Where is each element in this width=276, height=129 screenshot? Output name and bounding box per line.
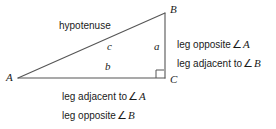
bottom-annotation-line-1-variable: A — [139, 90, 146, 102]
vertex-label-a: A — [6, 72, 13, 83]
bottom-annotation-block: leg adjacent to∠A leg opposite∠B — [62, 90, 146, 122]
hypotenuse-label: hypotenuse — [59, 21, 111, 31]
bottom-annotation-line-2-prefix: leg opposite — [62, 110, 116, 121]
right-annotation-line-2: leg adjacent to∠B — [177, 57, 261, 70]
vertex-label-c: C — [170, 74, 177, 85]
angle-symbol-icon: ∠ — [127, 90, 139, 102]
bottom-annotation-line-2: leg opposite∠B — [62, 109, 146, 122]
bottom-annotation-line-1: leg adjacent to∠A — [62, 90, 146, 103]
bottom-annotation-line-2-variable: B — [128, 109, 135, 121]
right-annotation-line-1-prefix: leg opposite — [177, 39, 231, 50]
right-annotation-line-2-variable: B — [254, 57, 261, 69]
bottom-annotation-line-1-prefix: leg adjacent to — [62, 91, 127, 102]
angle-symbol-icon: ∠ — [242, 57, 254, 69]
angle-symbol-icon: ∠ — [231, 38, 243, 50]
side-label-a: a — [154, 41, 160, 52]
side-label-b: b — [105, 61, 111, 72]
angle-symbol-icon: ∠ — [116, 109, 128, 121]
vertex-label-b: B — [170, 4, 177, 15]
right-annotation-line-2-prefix: leg adjacent to — [177, 58, 242, 69]
side-label-c: c — [107, 41, 112, 52]
right-annotation-line-1: leg opposite∠A — [177, 38, 261, 51]
figure-canvas: hypotenuse c b a A B C leg opposite∠A le… — [0, 0, 276, 129]
right-annotation-line-1-variable: A — [243, 38, 250, 50]
right-annotation-block: leg opposite∠A leg adjacent to∠B — [177, 38, 261, 70]
right-angle-marker-icon — [156, 70, 164, 78]
